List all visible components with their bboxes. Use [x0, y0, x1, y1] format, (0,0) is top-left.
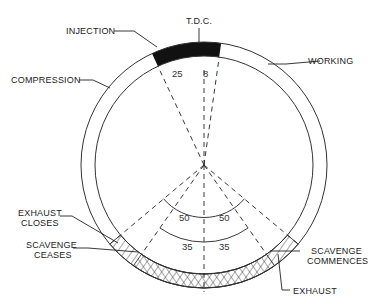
- timing-diagram: T.D.C. INJECTION COMPRESSION WORKING EXH…: [0, 0, 375, 306]
- exhaust-closes-label-2: CLOSES: [21, 218, 59, 228]
- angle-35-left: 35: [182, 241, 193, 252]
- injection-start-line: [158, 66, 204, 165]
- angle-25: 25: [172, 68, 183, 79]
- scavenge-ceases-label-1: SCAVENGE: [26, 240, 77, 250]
- exhaust-label: EXHAUST: [293, 286, 337, 296]
- angle-35-right: 35: [219, 241, 230, 252]
- scavenge-commences-label-1: SCAVENGE: [311, 246, 362, 256]
- scavenge-ceases-label-2: CEASES: [34, 250, 72, 260]
- exhaust-closes-label-1: EXHAUST: [18, 208, 62, 218]
- angle-50-left: 50: [179, 212, 190, 223]
- angle-50-right: 50: [219, 212, 230, 223]
- angle-8: 8: [203, 68, 208, 79]
- tdc-label: T.D.C.: [186, 16, 212, 26]
- injection-label: INJECTION: [66, 26, 115, 36]
- scavenge-left-line: [142, 165, 205, 254]
- scavenge-right-line: [204, 165, 267, 254]
- injection-band: [152, 42, 221, 66]
- working-label: WORKING: [308, 56, 353, 66]
- scavenge-commences-label-2: COMMENCES: [307, 256, 368, 266]
- compression-label: COMPRESSION: [11, 75, 81, 85]
